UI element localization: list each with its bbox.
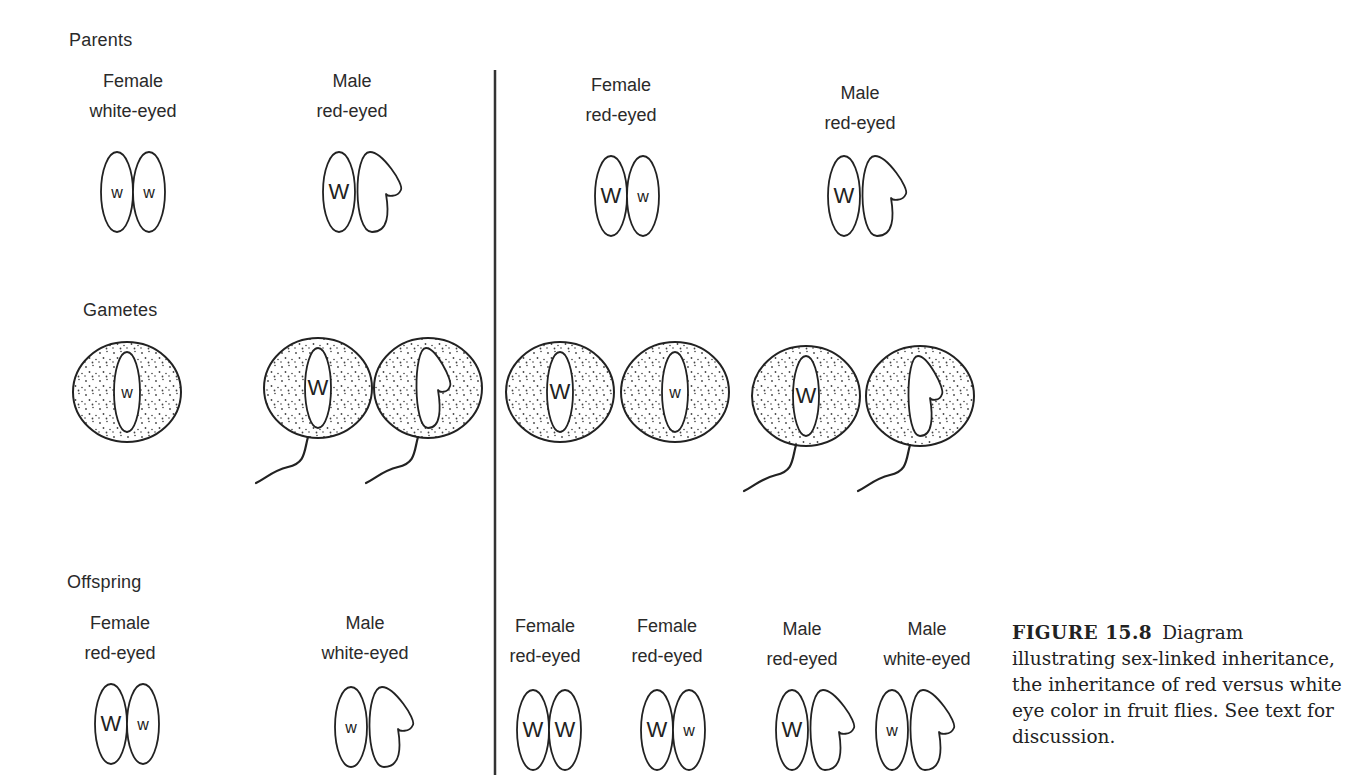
sperm-cell: [858, 346, 974, 491]
recessive-allele-w: w: [120, 384, 133, 401]
recessive-allele-w: w: [885, 722, 898, 739]
sperm-cell: [366, 338, 482, 483]
y-chromosome-icon: [369, 687, 413, 767]
y-chromosome-icon: [862, 156, 906, 236]
recessive-allele-w: w: [636, 188, 649, 205]
x-chromosome-icon: W: [828, 156, 860, 236]
gamete-cells: wWWwW: [73, 338, 974, 491]
parent-karyotype-2: W: [323, 152, 401, 232]
offspring-chromosomes: WwwWWWwWw: [95, 684, 954, 770]
recessive-allele-w: w: [668, 384, 681, 401]
dominant-allele-W: W: [550, 379, 571, 404]
x-chromosome-icon: w: [662, 352, 688, 432]
x-chromosome-icon: W: [305, 348, 331, 428]
x-chromosome-icon: w: [133, 152, 165, 232]
x-chromosome-icon: W: [323, 152, 355, 232]
dominant-allele-W: W: [101, 711, 122, 736]
y-chromosome-icon: [910, 690, 954, 770]
dominant-allele-W: W: [523, 717, 544, 742]
x-chromosome-icon: W: [595, 156, 627, 236]
parent-karyotype-4: W: [828, 156, 906, 236]
egg-cell: w: [621, 342, 729, 442]
x-chromosome-icon: W: [793, 356, 819, 436]
sperm-cell: W: [256, 338, 372, 483]
recessive-allele-w: w: [136, 716, 149, 733]
x-chromosome-icon: w: [627, 156, 659, 236]
figure-number: FIGURE 15.8: [1012, 622, 1152, 643]
offspring-karyotype-6: w: [876, 690, 954, 770]
recessive-allele-w: w: [682, 722, 695, 739]
dominant-allele-W: W: [782, 717, 803, 742]
offspring-karyotype-5: W: [776, 690, 854, 770]
recessive-allele-w: w: [344, 719, 357, 736]
x-chromosome-icon: w: [101, 152, 133, 232]
y-chromosome-icon: [810, 690, 854, 770]
offspring-karyotype-4: Ww: [641, 690, 705, 770]
x-chromosome-icon: w: [335, 687, 367, 767]
parent-chromosomes: wwWWwW: [101, 152, 906, 236]
sperm-cell: W: [744, 346, 860, 491]
x-chromosome-icon: w: [114, 352, 140, 432]
sperm-tail-icon: [366, 437, 418, 483]
offspring-karyotype-1: Ww: [95, 684, 159, 764]
dominant-allele-W: W: [329, 179, 350, 204]
x-chromosome-icon: W: [776, 690, 808, 770]
egg-cell: w: [73, 342, 181, 442]
x-chromosome-icon: w: [876, 690, 908, 770]
dominant-allele-W: W: [647, 717, 668, 742]
recessive-allele-w: w: [110, 184, 123, 201]
y-chromosome-icon: [357, 152, 401, 232]
dominant-allele-W: W: [555, 717, 576, 742]
offspring-karyotype-2: w: [335, 687, 413, 767]
recessive-allele-w: w: [142, 184, 155, 201]
x-chromosome-icon: W: [95, 684, 127, 764]
sperm-tail-icon: [858, 445, 910, 491]
dominant-allele-W: W: [834, 183, 855, 208]
figure-caption: FIGURE 15.8Diagram illustrating sex-link…: [1012, 620, 1342, 750]
sperm-tail-icon: [744, 445, 796, 491]
sperm-tail-icon: [256, 437, 308, 483]
x-chromosome-icon: w: [673, 690, 705, 770]
x-chromosome-icon: W: [549, 690, 581, 770]
x-chromosome-icon: W: [517, 690, 549, 770]
dominant-allele-W: W: [601, 183, 622, 208]
dominant-allele-W: W: [796, 383, 817, 408]
x-chromosome-icon: W: [547, 352, 573, 432]
parent-karyotype-1: ww: [101, 152, 165, 232]
egg-cell: W: [506, 342, 614, 442]
x-chromosome-icon: w: [127, 684, 159, 764]
x-chromosome-icon: W: [641, 690, 673, 770]
dominant-allele-W: W: [308, 375, 329, 400]
parent-karyotype-3: Ww: [595, 156, 659, 236]
offspring-karyotype-3: WW: [517, 690, 581, 770]
